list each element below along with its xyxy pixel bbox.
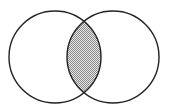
venn-diagram xyxy=(0,0,169,108)
